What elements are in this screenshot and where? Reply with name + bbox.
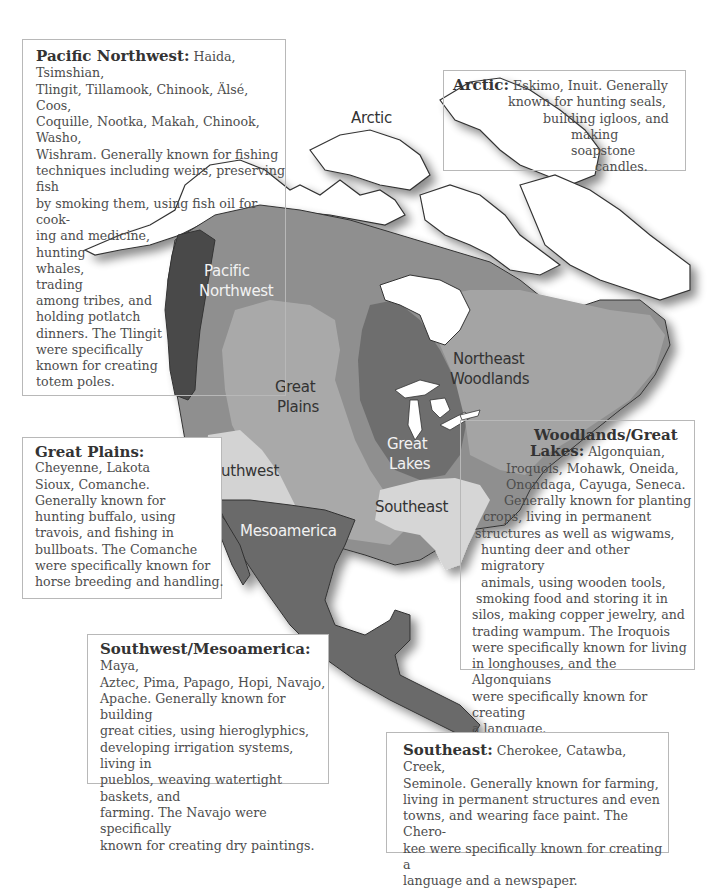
map-label-great-plains-line2: Plains: [277, 398, 319, 416]
map-label-great-lakes-line1: Great: [387, 435, 427, 453]
box-line: Apache. Generally known for building: [100, 691, 328, 724]
map-label-arctic: Arctic: [351, 109, 392, 127]
info-box-southwest-mesoamerica: Southwest/Mesoamerica: Maya, Aztec, Pima…: [87, 634, 329, 784]
box-line: farming. The Navajo were specifically: [100, 805, 328, 838]
box-line: totem poles.: [36, 374, 196, 390]
box-line: hunting deer and other migratory: [461, 542, 693, 575]
box-line: Generally known for: [35, 493, 225, 509]
box-line: among tribes, and: [36, 293, 196, 309]
info-box-arctic: Arctic: Eskimo, Inuit. Generally known f…: [443, 70, 686, 171]
box-line: making soapstone: [453, 127, 683, 160]
box-line: were specifically known for: [35, 558, 225, 574]
box-line: by smoking them, using fish oil for cook…: [36, 196, 286, 229]
box-line: Seminole. Generally known for farming,: [403, 776, 665, 792]
info-box-great-plains: Great Plains: Cheyenne, Lakota Sioux, Co…: [22, 437, 222, 599]
box-line: whales,: [36, 261, 286, 277]
box-line: Iroquois, Mohawk, Oneida,: [461, 461, 693, 477]
map-label-mesoamerica: Mesoamerica: [240, 522, 337, 540]
box-line: Cheyenne, Lakota: [35, 460, 225, 476]
box-line: building igloos, and: [453, 111, 683, 127]
box-line: dinners. The Tlingit: [36, 326, 196, 342]
box-line: ing and medicine,: [36, 228, 286, 244]
box-line: were specifically: [36, 342, 196, 358]
box-title-woodlands-line1: Woodlands/Great: [461, 427, 693, 443]
box-line: in longhouses, and the Algonquians: [461, 656, 693, 689]
box-title-southwest-mesoamerica: Southwest/Mesoamerica:: [100, 640, 311, 658]
box-line: great cities, using hieroglyphics,: [100, 723, 328, 739]
box-line: known for creating: [36, 358, 196, 374]
map-label-northeast-woodlands-line1: Northeast: [453, 350, 524, 368]
box-line: animals, using wooden tools,: [461, 575, 693, 591]
box-line: candles.: [453, 159, 683, 175]
box-title-southeast: Southeast:: [403, 741, 493, 759]
box-line: travois, and fishing in: [35, 525, 225, 541]
map-label-northeast-woodlands-line2: Woodlands: [450, 370, 529, 388]
box-line: Onondaga, Cayuga, Seneca.: [461, 477, 693, 493]
box-line: known for hunting seals,: [453, 94, 683, 110]
box-line: Algonquian,: [588, 444, 665, 459]
box-line: kee were specifically known for creating…: [403, 841, 665, 874]
box-title-great-plains: Great Plains:: [35, 444, 225, 460]
info-box-woodlands-great-lakes: Woodlands/Great Lakes: Algonquian, Iroqu…: [460, 420, 695, 670]
box-line: Eskimo, Inuit. Generally: [513, 78, 668, 93]
box-line: horse breeding and handling.: [35, 574, 225, 590]
box-line: Aztec, Pima, Papago, Hopi, Navajo,: [100, 675, 328, 691]
box-line: were specifically known for creating: [461, 689, 693, 722]
box-line: techniques including weirs, preserving f…: [36, 163, 286, 196]
box-line: bullboats. The Comanche: [35, 542, 225, 558]
box-line: Generally known for planting: [461, 493, 693, 509]
box-line: Sioux, Comanche.: [35, 477, 225, 493]
map-label-southeast: Southeast: [375, 498, 448, 516]
info-box-southeast: Southeast: Cherokee, Catawba, Creek, Sem…: [386, 732, 669, 853]
box-line: Wishram. Generally known for fishing: [36, 147, 286, 163]
box-title-woodlands-line2: Lakes:: [530, 442, 584, 460]
map-label-great-lakes-line2: Lakes: [389, 455, 430, 473]
box-line: smoking food and storing it in: [461, 591, 693, 607]
box-line: were specifically known for living: [461, 640, 693, 656]
box-line: developing irrigation systems, living in: [100, 740, 328, 773]
box-line: Tlingit, Tillamook, Chinook, Älsé, Coos,: [36, 82, 286, 115]
box-title-pacific-northwest: Pacific Northwest:: [36, 47, 190, 65]
box-line: hunting buffalo, using: [35, 509, 225, 525]
box-line: living in permanent structures and even: [403, 792, 665, 808]
box-title-arctic: Arctic:: [453, 76, 509, 94]
box-line: Maya,: [100, 658, 139, 673]
box-line: crops, living in permanent: [461, 509, 693, 525]
box-line: towns, and wearing face paint. The Chero…: [403, 808, 665, 841]
box-line: silos, making copper jewelry, and: [461, 607, 693, 623]
box-line: pueblos, weaving watertight baskets, and: [100, 772, 328, 805]
box-line: trading: [36, 277, 286, 293]
box-line: holding potlatch: [36, 309, 196, 325]
box-line: language and a newspaper.: [403, 873, 665, 889]
box-line: Coquille, Nootka, Makah, Chinook, Washo,: [36, 114, 286, 147]
info-box-pacific-northwest: Pacific Northwest: Haida, Tsimshian, Tli…: [22, 39, 286, 396]
box-line: hunting: [36, 245, 286, 261]
box-line: trading wampum. The Iroquois: [461, 624, 693, 640]
box-line: known for creating dry paintings.: [100, 838, 328, 854]
box-line: structures as well as wigwams,: [461, 526, 693, 542]
